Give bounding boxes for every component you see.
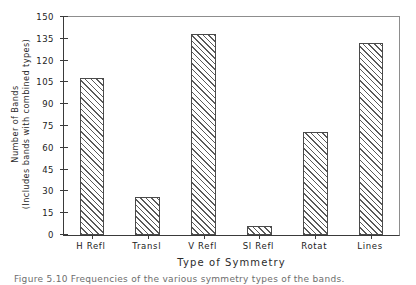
figure-caption: Figure 5.10 Frequencies of the various s… — [14, 274, 406, 284]
bar-rotat — [303, 132, 328, 235]
y-tick-label: 15 — [42, 208, 54, 218]
bar-h-refl — [80, 78, 105, 235]
plot-area: 0153045607590105120135150 — [63, 16, 400, 236]
y-tick: 60 — [60, 147, 68, 148]
y-axis-title: Number of Bands (Includes bands with com… — [6, 24, 36, 224]
y-axis-title-line2: (Includes bands with combined types) — [21, 39, 32, 209]
y-tick: 75 — [60, 125, 68, 126]
y-tick: 15 — [60, 212, 68, 213]
y-tick: 150 — [60, 16, 68, 17]
y-tick-label: 75 — [42, 121, 54, 131]
y-tick-label: 135 — [36, 34, 54, 44]
x-tick-label: Rotat — [301, 241, 327, 251]
y-axis-title-line1: Number of Bands — [10, 39, 21, 209]
x-tick-label: V Refl — [188, 241, 217, 251]
y-tick: 105 — [60, 81, 68, 82]
y-tick-label: 0 — [48, 230, 54, 240]
y-tick: 135 — [60, 38, 68, 39]
y-tick-label: 30 — [42, 186, 54, 196]
bar-lines — [359, 43, 384, 235]
x-tick-label: H Refl — [76, 241, 105, 251]
bar-transl — [135, 197, 160, 235]
y-tick: 0 — [60, 234, 68, 235]
x-tick-label: Sl Refl — [243, 241, 274, 251]
x-tick-label: Transl — [132, 241, 161, 251]
y-tick-label: 120 — [36, 56, 54, 66]
y-tick-label: 90 — [42, 99, 54, 109]
x-axis-title: Type of Symmetry — [63, 257, 400, 268]
bar-v-refl — [191, 34, 216, 235]
y-tick-label: 45 — [42, 165, 54, 175]
y-tick: 45 — [60, 169, 68, 170]
bar-sl-refl — [247, 226, 272, 235]
y-tick-label: 60 — [42, 143, 54, 153]
y-tick: 90 — [60, 103, 68, 104]
y-tick: 30 — [60, 190, 68, 191]
y-tick-label: 150 — [36, 12, 54, 22]
x-tick-label: Lines — [357, 241, 383, 251]
y-tick-label: 105 — [36, 77, 54, 87]
y-tick: 120 — [60, 60, 68, 61]
figure-root: Number of Bands (Includes bands with com… — [0, 0, 416, 285]
